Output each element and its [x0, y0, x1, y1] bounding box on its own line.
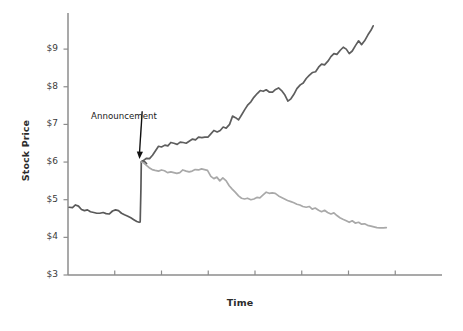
announcement-annotation-label: Announcement	[91, 111, 157, 121]
y-tick-label-1: $8	[36, 81, 58, 91]
y-tick-label-5: $4	[36, 231, 58, 241]
data-series-group	[69, 26, 386, 228]
y-tick-label-3: $6	[36, 156, 58, 166]
series-line-pre-announcement	[69, 161, 146, 222]
annotation-arrow-head	[137, 151, 143, 159]
y-tick-label-2: $7	[36, 118, 58, 128]
axes-group	[64, 13, 443, 275]
x-axis-title: Time	[200, 297, 280, 308]
stock-price-chart-figure: $9$8$7$6$5$4$3 Stock Price Time Announce…	[0, 0, 463, 331]
y-tick-label-4: $5	[36, 194, 58, 204]
y-tick-label-0: $9	[36, 43, 58, 53]
y-tick-label-6: $3	[36, 269, 58, 279]
series-line-bad-news-path	[141, 162, 386, 228]
y-axis-title: Stock Price	[20, 111, 31, 191]
chart-card: $9$8$7$6$5$4$3 Stock Price Time Announce…	[5, 5, 447, 318]
series-line-good-news-path	[141, 26, 373, 162]
chart-canvas	[5, 5, 447, 318]
